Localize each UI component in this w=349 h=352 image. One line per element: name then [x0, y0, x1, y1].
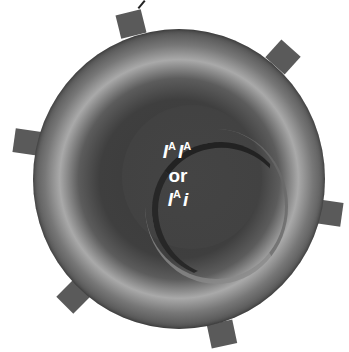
genotype-label: IAIA or IAi	[128, 140, 228, 212]
genotype-heterozygous: IAi	[128, 188, 228, 212]
or-connector: or	[128, 164, 228, 188]
allele-2-superscript: A	[183, 140, 191, 152]
allele-2: i	[183, 189, 188, 210]
genotype-homozygous: IAIA	[128, 140, 228, 164]
blood-cell-diagram: IAIA or IAi	[0, 0, 349, 352]
allele-1-superscript: A	[173, 188, 181, 200]
leader-line	[138, 0, 146, 9]
allele-1-superscript: A	[168, 140, 176, 152]
